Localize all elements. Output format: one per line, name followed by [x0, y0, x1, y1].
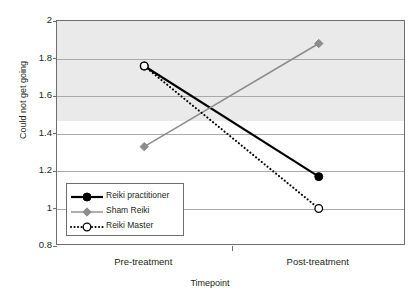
x-tick-label: Post-treatment	[258, 256, 378, 267]
legend-label: Sham Reiki	[104, 205, 149, 215]
data-point-marker	[140, 62, 148, 70]
y-tick-label: 0.8	[6, 240, 52, 250]
y-tick-label: 1	[6, 203, 52, 213]
y-tick-label: 1.8	[6, 53, 52, 63]
legend-key-swatch	[70, 189, 104, 201]
y-tick-label: 1.2	[6, 165, 52, 175]
series-2	[140, 39, 323, 151]
line-chart: Could not get going 21.81.61.41.210.8 Pr…	[0, 0, 420, 305]
legend-label: Reiki Master	[104, 220, 153, 230]
y-axis-tick-labels: 21.81.61.41.210.8	[0, 0, 52, 305]
y-tick-label: 1.6	[6, 90, 52, 100]
data-point-marker	[140, 142, 148, 150]
series-line	[144, 44, 319, 147]
data-point-marker	[315, 39, 323, 47]
y-tick-label: 1.4	[6, 128, 52, 138]
legend-item: Sham Reiki	[70, 202, 179, 217]
legend-label: Reiki practitioner	[104, 190, 169, 200]
x-axis-tick	[232, 246, 233, 251]
data-point-marker	[315, 173, 323, 181]
x-tick-label: Pre-treatment	[83, 256, 203, 267]
legend-key-swatch	[70, 219, 104, 231]
series-line	[144, 66, 319, 177]
legend-item: Reiki practitioner	[70, 187, 179, 202]
legend-item: Reiki Master	[70, 217, 179, 232]
data-point-marker	[315, 205, 323, 213]
x-axis-title: Timepoint	[0, 278, 420, 288]
legend: Reiki practitionerSham ReikiReiki Master	[66, 183, 184, 236]
y-tick-label: 2	[6, 15, 52, 25]
series-1	[140, 62, 323, 181]
legend-key-swatch	[70, 204, 104, 216]
